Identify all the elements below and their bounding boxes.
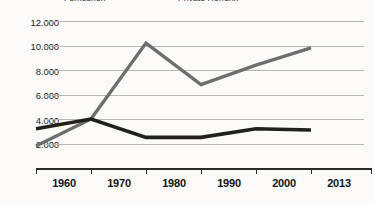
x-axis-tickmark-1970 — [91, 168, 92, 174]
x-axis-label-2013: 2013 — [311, 177, 367, 189]
legend-item-series-1: Fernsehen — [44, 0, 106, 3]
x-axis-tickmark-1960 — [36, 168, 37, 174]
series-container — [44, 21, 364, 168]
line-chart: Fernsehen Private Hörfunk 12.000 10.000 … — [0, 0, 375, 205]
x-axis-label-1960: 1960 — [36, 177, 92, 189]
x-axis-tickmark-1980 — [146, 168, 147, 174]
chart-legend: Fernsehen Private Hörfunk — [0, 0, 375, 5]
series-line-private-hoerfunk — [36, 119, 311, 137]
x-axis-label-2000: 2000 — [256, 177, 312, 189]
x-axis-tickmark-1990 — [201, 168, 202, 174]
x-axis-label-1990: 1990 — [201, 177, 257, 189]
x-axis-label-1970: 1970 — [91, 177, 147, 189]
legend-label-series-1: Fernsehen — [64, 0, 106, 3]
x-axis-line — [36, 168, 372, 170]
legend-item-series-2: Private Hörfunk — [158, 0, 238, 3]
plot-area — [44, 21, 364, 168]
x-axis-tickmark-end — [371, 168, 372, 174]
x-axis-label-1980: 1980 — [146, 177, 202, 189]
x-axis-tickmark-2013 — [311, 168, 312, 174]
x-axis-tickmark-2000 — [256, 168, 257, 174]
legend-label-series-2: Private Hörfunk — [178, 0, 238, 3]
